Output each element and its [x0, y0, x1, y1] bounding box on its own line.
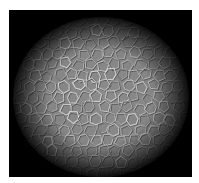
cell-pattern: [9, 10, 192, 177]
micrograph-image: Grayscale micrograph of a dense layer of…: [9, 10, 192, 177]
vignette-overlay: [9, 10, 192, 177]
